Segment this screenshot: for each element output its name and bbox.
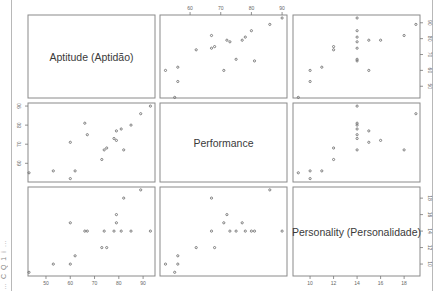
data-point xyxy=(297,172,299,174)
tick-label: 14 xyxy=(427,228,433,234)
panel-border xyxy=(28,103,155,182)
tick-label: 60 xyxy=(187,5,193,11)
scatter-panel xyxy=(28,103,155,182)
data-point xyxy=(281,17,283,19)
data-point xyxy=(123,197,125,199)
panel-border xyxy=(160,187,287,276)
data-point xyxy=(164,69,166,71)
data-point xyxy=(380,139,382,141)
data-point xyxy=(244,230,246,232)
data-point xyxy=(103,149,105,151)
tick-label: 70 xyxy=(92,280,98,286)
tick-label: 12 xyxy=(331,280,337,286)
data-point xyxy=(140,113,142,115)
data-point xyxy=(241,39,243,41)
data-point xyxy=(253,60,255,62)
data-point xyxy=(174,96,176,98)
data-point xyxy=(223,222,225,224)
x-axis: 60708090 xyxy=(187,5,285,15)
data-point xyxy=(84,230,86,232)
data-point xyxy=(380,39,382,41)
tick-label: 70 xyxy=(16,141,22,147)
data-point xyxy=(74,170,76,172)
data-point xyxy=(333,158,335,160)
data-point xyxy=(368,141,370,143)
data-point xyxy=(149,230,151,232)
data-point xyxy=(115,139,117,141)
data-point xyxy=(356,36,358,38)
data-point xyxy=(115,222,117,224)
scatter-panel xyxy=(160,15,287,99)
data-point xyxy=(415,23,417,25)
tick-label: 14 xyxy=(354,280,360,286)
data-point xyxy=(177,263,179,265)
variable-label: Performance xyxy=(193,137,253,149)
data-point xyxy=(309,80,311,82)
data-point xyxy=(101,247,103,249)
data-point xyxy=(235,58,237,60)
data-point xyxy=(356,149,358,151)
tick-label: 80 xyxy=(249,5,255,11)
scatter-panel xyxy=(293,103,420,182)
data-point xyxy=(149,105,151,107)
tick-label: 70 xyxy=(218,5,224,11)
tick-label: 12 xyxy=(427,245,433,251)
scatterplot-matrix: Aptitude (Aptidão)PerformancePersonality… xyxy=(0,0,437,293)
data-point xyxy=(74,255,76,257)
data-point xyxy=(106,147,108,149)
data-point xyxy=(120,128,122,130)
x-axis: 5060708090 xyxy=(43,276,146,286)
tick-label: 60 xyxy=(67,280,73,286)
scatter-panel xyxy=(160,187,287,276)
data-point xyxy=(309,178,311,180)
data-point xyxy=(235,230,237,232)
tick-label: 90 xyxy=(16,103,22,109)
data-point xyxy=(69,178,71,180)
data-point xyxy=(164,263,166,265)
tick-label: 60 xyxy=(427,68,433,74)
data-point xyxy=(368,39,370,41)
data-point xyxy=(177,80,179,82)
data-point xyxy=(28,172,30,174)
data-point xyxy=(177,255,179,257)
data-point xyxy=(69,263,71,265)
diagonal-label-panel: Personality (Personalidade) xyxy=(292,187,421,276)
data-point xyxy=(174,271,176,273)
tick-label: 10 xyxy=(427,261,433,267)
data-point xyxy=(177,66,179,68)
data-point xyxy=(106,247,108,249)
data-point xyxy=(244,36,246,38)
data-point xyxy=(140,189,142,191)
data-point xyxy=(86,230,88,232)
tick-label: 50 xyxy=(43,280,49,286)
data-point xyxy=(356,58,358,60)
y-axis: 5060708090 xyxy=(420,20,433,89)
tick-label: 16 xyxy=(427,212,433,218)
tick-label: 10 xyxy=(307,280,313,286)
data-point xyxy=(356,41,358,43)
data-point xyxy=(103,230,105,232)
data-point xyxy=(309,69,311,71)
data-point xyxy=(229,230,231,232)
data-point xyxy=(321,170,323,172)
data-point xyxy=(309,170,311,172)
x-axis: 1012141618 xyxy=(307,276,407,286)
data-point xyxy=(84,122,86,124)
tick-label: 18 xyxy=(427,195,433,201)
data-point xyxy=(356,128,358,130)
tick-label: 90 xyxy=(279,5,285,11)
data-point xyxy=(210,197,212,199)
data-point xyxy=(28,271,30,273)
data-point xyxy=(356,137,358,139)
data-point xyxy=(130,124,132,126)
data-point xyxy=(333,46,335,48)
data-point xyxy=(52,263,54,265)
data-point xyxy=(115,214,117,216)
scatter-panel xyxy=(293,15,420,99)
data-point xyxy=(86,134,88,136)
data-point xyxy=(356,124,358,126)
data-point xyxy=(368,130,370,132)
data-point xyxy=(356,105,358,107)
data-point xyxy=(226,214,228,216)
data-point xyxy=(333,49,335,51)
